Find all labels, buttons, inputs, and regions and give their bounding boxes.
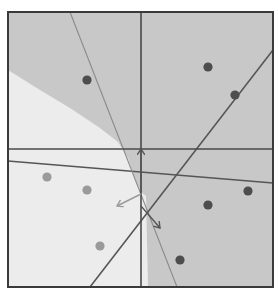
diagram-canvas xyxy=(0,0,278,294)
data-point-dark xyxy=(243,186,252,195)
data-point-dark xyxy=(82,75,91,84)
data-point-light xyxy=(95,241,104,250)
decision-region-plot xyxy=(0,0,278,294)
data-point-dark xyxy=(230,90,239,99)
data-point-dark xyxy=(175,255,184,264)
data-point-light xyxy=(82,185,91,194)
data-point-dark xyxy=(203,200,212,209)
data-point-light xyxy=(42,172,51,181)
data-point-dark xyxy=(203,62,212,71)
